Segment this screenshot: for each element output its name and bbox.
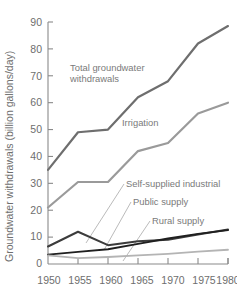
annotation-rural-supply: Rural supply [152, 215, 204, 226]
y-tick-label: 80 [30, 43, 42, 55]
annotation-public-supply: Public supply [133, 196, 189, 207]
x-tick-label: 1955 [68, 274, 92, 286]
y-axis-tick-labels: 90 80 70 60 50 40 30 20 10 0 [30, 16, 42, 269]
annotation-self-supplied-industrial: Self-supplied industrial [126, 178, 220, 189]
y-tick-label: 60 [30, 96, 42, 108]
series-annotations: Total groundwater withdrawals Irrigation… [69, 62, 220, 226]
y-tick-label: 30 [30, 177, 42, 189]
x-tick-label: 1965 [130, 274, 154, 286]
y-tick-label: 40 [30, 150, 42, 162]
x-tick-label: 1975 [192, 274, 216, 286]
y-tick-label: 70 [30, 70, 42, 82]
series-line-total-groundwater-withdrawals [48, 26, 228, 170]
y-tick-label: 90 [30, 16, 42, 28]
y-tick-label: 20 [30, 204, 42, 216]
y-tick-label: 0 [36, 257, 42, 269]
x-tick-label: 1970 [161, 274, 185, 286]
x-axis-tick-labels: 1950 1955 1960 1965 1970 1975 1980 [37, 274, 237, 286]
annotation-total-groundwater-withdrawals-line2: withdrawals [69, 73, 119, 84]
x-tick-label: 1980 [216, 274, 237, 286]
y-tick-label: 50 [30, 123, 42, 135]
annotation-total-groundwater-withdrawals: Total groundwater [70, 62, 145, 73]
chart-container: Groundwater withdrawals (billion gallons… [0, 0, 237, 300]
y-axis-title: Groundwater withdrawals (billion gallons… [3, 51, 15, 262]
annotation-irrigation: Irrigation [122, 117, 158, 128]
y-tick-label: 10 [30, 230, 42, 242]
line-chart: Groundwater withdrawals (billion gallons… [0, 0, 237, 300]
x-tick-label: 1960 [99, 274, 123, 286]
series-line-rural-supply [48, 250, 228, 258]
chart-axes [48, 22, 228, 264]
x-tick-label: 1950 [37, 274, 61, 286]
